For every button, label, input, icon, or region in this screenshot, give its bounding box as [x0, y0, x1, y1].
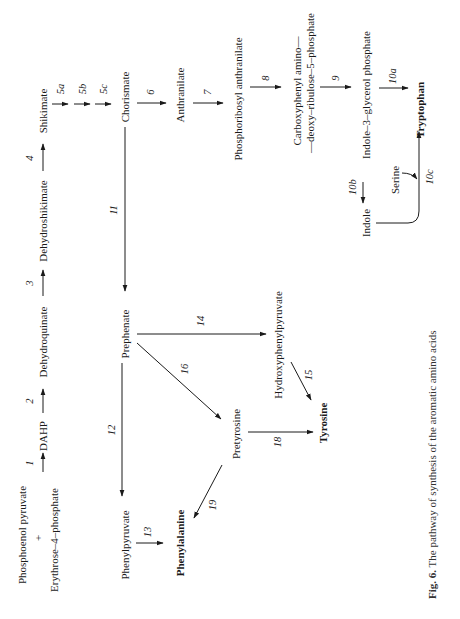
- step-label-16: 16: [180, 364, 191, 375]
- plus-sign: +: [33, 535, 44, 541]
- step-label-13: 13: [143, 527, 154, 538]
- serine-join-arrow: [402, 173, 417, 179]
- figure-caption-text: The pathway of synthesis of the aromatic…: [426, 330, 438, 567]
- compound-serine: Serine: [390, 166, 401, 194]
- step-label-10a: 10a: [388, 68, 399, 84]
- step-label-3: 3: [25, 280, 36, 285]
- figure-caption: Fig. 6. The pathway of synthesis of the …: [427, 330, 438, 599]
- step-label-15: 15: [304, 370, 315, 381]
- compound-anthranilate: Anthranilate: [175, 68, 186, 123]
- rotated-figure-page: Phosphoenol pyruvate + Erythrose–4–phosp…: [0, 0, 460, 619]
- step-label-5c: 5c: [99, 84, 110, 94]
- compound-tyrosine: Tyrosine: [318, 403, 329, 444]
- compound-dahp: DAHP: [38, 421, 49, 451]
- step-label-11: 11: [109, 205, 120, 215]
- step-label-4: 4: [25, 155, 36, 160]
- step-label-12: 12: [107, 425, 118, 436]
- step-label-2: 2: [25, 398, 36, 403]
- step-label-1: 1: [25, 460, 36, 465]
- arrow-step-15: [291, 362, 311, 400]
- arrow-step-16: [137, 343, 221, 419]
- compound-dehydroquinate: Dehydroquinate: [38, 307, 49, 378]
- step-label-6: 6: [146, 89, 157, 94]
- compound-chorismate: Chorismate: [120, 72, 131, 123]
- step-label-9: 9: [331, 75, 342, 80]
- compound-pretyrosine: Pretyrosine: [231, 409, 242, 459]
- compound-dehydroshikimate: Dehydroshikimate: [38, 180, 49, 261]
- step-label-5a: 5a: [56, 84, 67, 95]
- compound-prephenate: Prephenate: [120, 310, 131, 359]
- figure-caption-label: Fig. 6.: [426, 570, 438, 599]
- step-label-10b: 10b: [348, 179, 359, 195]
- step-label-8: 8: [261, 75, 272, 80]
- compound-indole-3-glycerol-phosphate: Indole–3–glycerol phosphate: [361, 31, 372, 159]
- compound-tryptophan: Tryptophan: [415, 82, 426, 138]
- compound-phosphoenol-pyruvate: Phosphoenol pyruvate: [17, 486, 28, 584]
- compound-carboxyphenyl-line2: —deoxy–ribulose–5–phosphate: [305, 13, 316, 153]
- step-label-18: 18: [273, 437, 284, 448]
- compound-phosphoribosyl-anthranilate: Phosphoribosyl anthranilate: [233, 37, 244, 160]
- compound-shikimate: Shikimate: [38, 89, 49, 134]
- compound-carboxyphenyl-line1: Carboxyphenyl amino—: [292, 36, 303, 145]
- compound-phenylpyruvate: Phenylpyruvate: [120, 510, 131, 579]
- pathway-arrows: [0, 0, 460, 619]
- step-label-7: 7: [203, 89, 214, 94]
- step-label-14: 14: [196, 316, 207, 327]
- step-label-19: 19: [208, 500, 219, 511]
- pathway-diagram: Phosphoenol pyruvate + Erythrose–4–phosp…: [0, 0, 460, 619]
- compound-hydroxyphenylpyruvate: Hydroxyphenylpyruvate: [273, 291, 284, 399]
- step-label-5b: 5b: [78, 84, 89, 95]
- step-label-10c: 10c: [425, 169, 436, 184]
- compound-indole: Indole: [361, 209, 372, 237]
- compound-erythrose-4-phosphate: Erythrose–4–phosphate: [49, 488, 60, 592]
- compound-phenylalanine: Phenylalanine: [175, 510, 186, 577]
